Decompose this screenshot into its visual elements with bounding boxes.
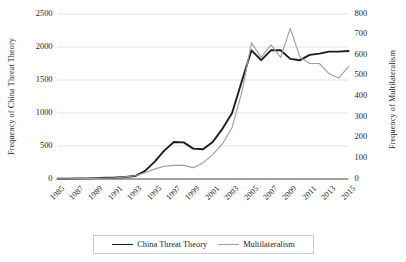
chart-container: Frequency of China Threat Theory Frequen… — [0, 0, 406, 262]
y-tick-right: 500 — [355, 70, 389, 79]
gridlines — [58, 14, 349, 179]
legend-item-1[interactable]: Multilateralism — [218, 240, 295, 249]
y-tick-right: 600 — [355, 50, 389, 59]
series-line-1 — [58, 28, 349, 178]
y-tick-left: 0 — [19, 174, 53, 183]
y-tick-right: 800 — [355, 9, 389, 18]
series-line-0 — [58, 50, 349, 178]
y-tick-right: 200 — [355, 132, 389, 141]
y-axis-title-left: Frequency of China Threat Theory — [7, 9, 16, 185]
y-tick-right: 400 — [355, 91, 389, 100]
y-tick-right: 700 — [355, 29, 389, 38]
y-axis-title-right: Frequency of Multilateralism — [388, 12, 397, 188]
y-tick-left: 1500 — [19, 75, 53, 84]
y-tick-left: 1000 — [19, 108, 53, 117]
series-lines — [58, 28, 349, 178]
legend-label: Multilateralism — [243, 240, 295, 249]
plot-area — [0, 0, 406, 262]
y-tick-left: 2000 — [19, 42, 53, 51]
chart-legend: China Threat TheoryMultilateralism — [93, 235, 314, 254]
legend-label: China Threat Theory — [137, 240, 207, 249]
y-tick-right: 300 — [355, 112, 389, 121]
y-tick-right: 100 — [355, 153, 389, 162]
legend-item-0[interactable]: China Threat Theory — [112, 240, 207, 249]
y-tick-left: 2500 — [19, 9, 53, 18]
legend-line-icon — [218, 244, 239, 245]
legend-line-icon — [112, 244, 133, 245]
y-tick-left: 500 — [19, 141, 53, 150]
y-tick-right: 0 — [355, 174, 389, 183]
